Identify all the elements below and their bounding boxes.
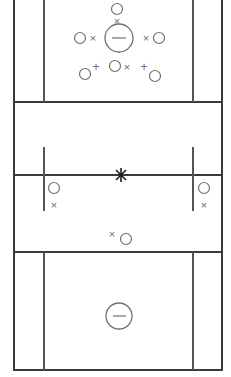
bottom-circle-minus-marker [106,303,132,329]
mid-left-circle-marker [49,183,60,194]
lower-right-circle-marker [150,71,161,82]
bottom-section-markers [106,303,132,329]
right-circle-marker [154,33,165,44]
lower-left-circle-marker [80,69,91,80]
lower-mid-x-marker: × [124,61,130,73]
low-mid-circle-marker [121,234,132,245]
mid-right-x-marker: × [201,199,207,211]
upper-circle-minus-marker [105,24,133,52]
lower-right-plus-marker: + [140,60,147,74]
low-mid-x-marker: × [109,228,115,240]
mid-right-circle-marker [199,183,210,194]
mid-left-x-marker: × [51,199,57,211]
court-diagram: × × × + × + [0,0,231,377]
upper-formation-cluster: × × × + × + [75,4,165,82]
court-lines-group [13,0,223,371]
court-diagram-canvas: × × × + × + [0,0,231,377]
lower-mid-circle-marker [110,61,121,72]
lower-left-plus-marker: + [92,60,99,74]
right-x-marker: × [143,32,149,44]
left-circle-marker [75,33,86,44]
left-x-marker: × [90,32,96,44]
middle-section-markers: × × × [49,168,210,245]
top-circle-marker [112,4,123,15]
